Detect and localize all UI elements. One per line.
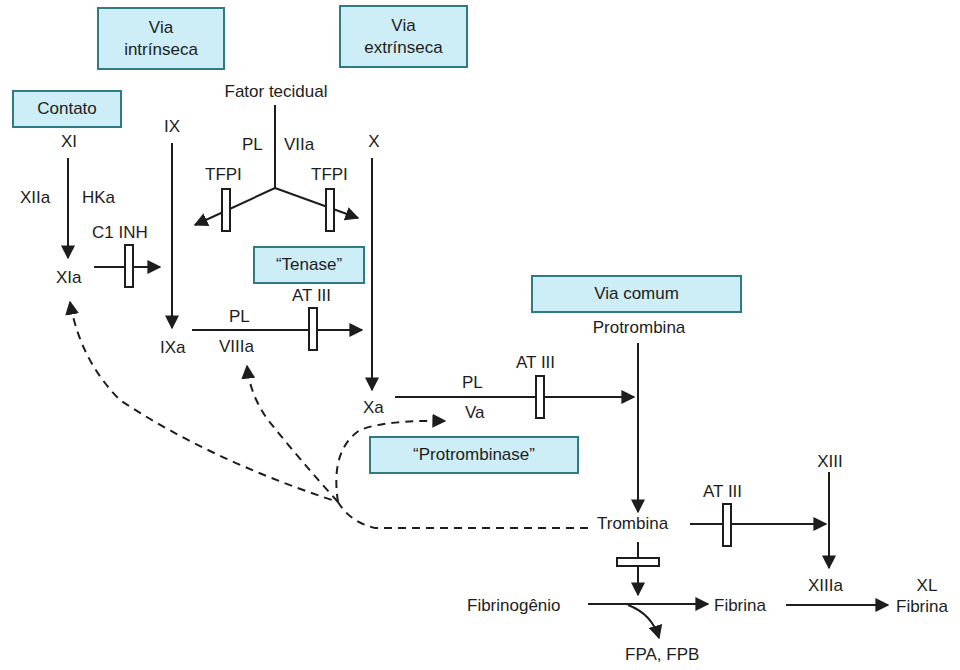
label-pl-extrinsic: PL [242,135,263,155]
tfpi-left-inhibitor-bar [222,189,230,231]
label-fibrina: Fibrina [714,596,766,616]
box-via-extrinseca-line1: Via [391,15,415,37]
label-fpa-fpb: FPA, FPB [625,645,699,665]
label-c1-inh: C1 INH [92,223,148,243]
label-viiia: VIIIa [219,337,254,357]
label-x: X [368,132,379,152]
box-protrombinase: “Protrombinase” [369,436,579,474]
label-at3-prothrombinase: AT III [516,353,555,373]
at3-thrombin-inhibitor-bar [723,504,731,546]
box-via-extrinseca: Via extrínseca [339,5,468,68]
label-tfpi-right: TFPI [311,165,348,185]
label-at3-tenase: AT III [292,286,331,306]
tfpi-right-inhibitor-bar [326,189,334,231]
fpa-fpb-release-arrow [628,605,659,638]
label-protrombina: Protrombina [593,318,686,338]
label-pl-tenase: PL [229,307,250,327]
c1inh-inhibitor-bar [125,245,133,287]
label-xiiia: XIIIa [808,576,843,596]
label-va: Va [465,403,485,423]
label-tfpi-left: TFPI [205,165,242,185]
label-ixa: IXa [160,338,186,358]
label-fator-tecidual: Fator tecidual [225,82,328,102]
fibrinogen-cleavage-bar [617,558,659,566]
box-via-comum: Via comum [531,275,742,313]
label-at3-thrombin: AT III [703,482,742,502]
label-viia: VIIa [284,135,314,155]
box-contato: Contato [12,90,122,128]
label-xiia: XIIa [20,188,50,208]
feedback-to-xia-dashed-arrow [70,302,588,528]
label-xia: XIa [56,268,82,288]
box-via-intrinseca: Via intrínseca [97,7,225,70]
box-via-intrinseca-line2: intrínseca [124,39,198,61]
feedback-to-viiia-dashed-arrow [247,366,338,502]
label-fibrinogenio: Fibrinogênio [467,596,561,616]
label-xl-fibrina: Fibrina [896,597,948,617]
tf-branch-right-arrow [275,188,358,218]
box-via-intrinseca-line1: Via [149,17,173,39]
tf-branch-left-arrow [195,188,275,225]
label-ix: IX [164,117,180,137]
label-xl: XL [917,576,938,596]
at3-tenase-inhibitor-bar [309,308,317,350]
box-tenase: “Tenase” [253,246,365,284]
label-pl-prothrombinase: PL [462,373,483,393]
box-via-extrinseca-line2: extrínseca [364,37,442,59]
label-xiii: XIII [817,452,843,472]
at3-prothrombinase-inhibitor-bar [536,376,544,418]
diagram-connectors [0,0,960,670]
coagulation-cascade-diagram: Via intrínseca Via extrínseca Contato “T… [0,0,960,670]
label-xa: Xa [363,398,384,418]
label-xi: XI [61,132,77,152]
label-trombina: Trombina [597,514,668,534]
label-hka: HKa [82,188,115,208]
